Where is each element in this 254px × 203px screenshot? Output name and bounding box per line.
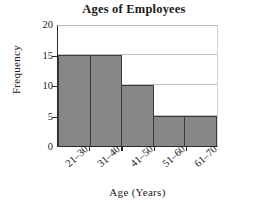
- bar: [153, 116, 186, 147]
- x-tick-mark: [186, 147, 187, 151]
- bar: [58, 55, 91, 147]
- bar-series: [58, 26, 217, 146]
- x-tick-mark: [121, 147, 122, 151]
- y-tick-mark: [52, 117, 57, 118]
- x-tick-label: 31–40: [96, 143, 124, 169]
- bar: [184, 116, 217, 147]
- x-axis-title: Age (Years): [57, 186, 218, 198]
- x-tick-mark: [89, 147, 90, 151]
- y-tick-label: 20: [43, 20, 54, 31]
- y-tick-mark: [52, 56, 57, 57]
- y-tick-label: 0: [48, 142, 53, 153]
- y-axis-title: Frequency: [11, 25, 22, 115]
- x-tick-label: 41–50: [128, 143, 156, 169]
- y-tick-mark: [52, 86, 57, 87]
- plot-area: [57, 25, 218, 147]
- bar: [121, 85, 154, 146]
- x-axis-tick-labels: 21–3031–4041–5051–6061–70: [57, 152, 218, 186]
- x-tick-label: 51–60: [160, 143, 188, 169]
- x-tick-mark: [154, 147, 155, 151]
- histogram-figure: Ages of Employees Frequency 05101520 21–…: [0, 0, 254, 203]
- x-tick-label: 21–30: [63, 143, 91, 169]
- bar: [90, 55, 123, 147]
- chart-title: Ages of Employees: [0, 2, 254, 16]
- x-tick-label: 61–70: [192, 143, 220, 169]
- y-axis-tick-labels: 05101520: [28, 25, 53, 147]
